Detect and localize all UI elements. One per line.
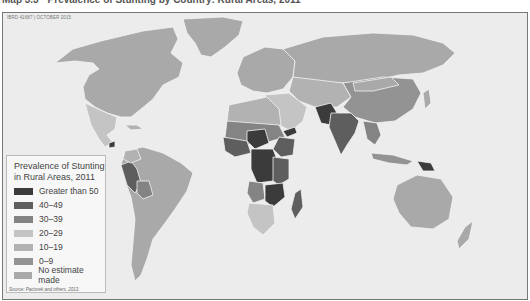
region-greenland: [183, 17, 243, 57]
legend-swatch: [14, 244, 33, 251]
region-japan: [423, 89, 431, 109]
map-title: Map 3.3 · Prevalence of Stunting by Coun…: [2, 0, 301, 5]
region-australia: [393, 175, 453, 229]
region-new-zealand: [457, 221, 473, 249]
region-europe: [237, 47, 295, 93]
legend-item-40-49: 40–49: [14, 200, 63, 210]
region-caribbean: [125, 125, 143, 130]
region-southern-africa: [247, 203, 275, 235]
legend-item-20-29: 20–29: [14, 228, 63, 238]
legend-swatch: [14, 216, 33, 223]
region-png: [417, 161, 435, 171]
region-madagascar: [291, 189, 303, 219]
region-russia: [283, 33, 455, 83]
legend-swatch: [14, 188, 33, 195]
legend-swatch: [14, 230, 33, 237]
region-niger-chad: [247, 129, 269, 149]
map-legend: Prevalence of Stunting in Rural Areas, 2…: [6, 155, 106, 293]
map-frame: IBRD 41687 | OCTOBER 2015 Prevalence of …: [2, 12, 528, 300]
legend-item-no-estimate: No estimate made: [14, 270, 105, 280]
region-southeast-asia: [363, 121, 381, 145]
region-angola: [247, 181, 265, 203]
legend-swatch: [14, 202, 33, 209]
region-east-africa: [273, 157, 289, 185]
region-india: [329, 113, 359, 155]
legend-swatch: [14, 272, 32, 279]
region-mozambique: [265, 183, 285, 207]
region-yemen: [283, 127, 297, 137]
source-note: Source: Paciorek and others, 2013.: [9, 287, 80, 292]
legend-swatch: [14, 258, 33, 265]
legend-item-greater-than-50: Greater than 50: [14, 186, 99, 196]
legend-title: Prevalence of Stunting in Rural Areas, 2…: [14, 161, 106, 183]
legend-item-10-19: 10–19: [14, 242, 63, 252]
map-code: IBRD 41687 | OCTOBER 2015: [7, 15, 71, 20]
region-north-america: [55, 27, 183, 117]
legend-item-30-39: 30–39: [14, 214, 63, 224]
region-indonesia: [371, 153, 413, 165]
